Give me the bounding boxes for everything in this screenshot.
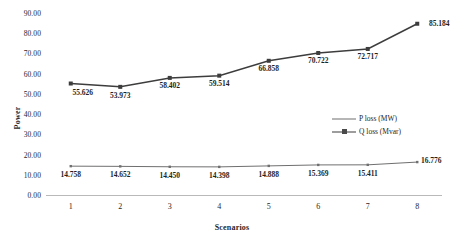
y-axis-tick: 30.00 bbox=[24, 132, 41, 140]
data-label: 14.758 bbox=[60, 171, 81, 179]
y-axis-tick: 60.00 bbox=[24, 71, 41, 79]
data-point-marker bbox=[416, 161, 418, 163]
data-point-marker bbox=[218, 166, 220, 168]
data-label: 16.776 bbox=[421, 157, 442, 165]
data-label: 66.858 bbox=[258, 65, 279, 73]
data-point-marker bbox=[69, 82, 73, 86]
legend: P loss (MW) Q loss (Mvar) bbox=[332, 112, 401, 138]
plot-area: 0.0010.0020.0030.0040.0050.0060.0070.008… bbox=[46, 14, 442, 196]
y-axis-tick: 20.00 bbox=[24, 152, 41, 160]
y-axis-tick: 0.00 bbox=[27, 192, 41, 200]
data-point-marker bbox=[316, 51, 320, 55]
data-point-marker bbox=[367, 164, 369, 166]
data-label: 58.402 bbox=[159, 82, 180, 90]
y-axis-tick: 40.00 bbox=[24, 111, 41, 119]
data-point-marker bbox=[415, 22, 419, 26]
data-label: 55.626 bbox=[72, 89, 93, 97]
data-point-marker bbox=[118, 85, 122, 89]
data-point-marker bbox=[217, 74, 221, 78]
data-label: 70.722 bbox=[308, 57, 329, 65]
x-axis-tick: 3 bbox=[168, 203, 172, 211]
x-axis-tick: 1 bbox=[69, 203, 73, 211]
data-point-marker bbox=[169, 166, 171, 168]
y-axis-tick: 90.00 bbox=[24, 10, 41, 18]
data-point-marker bbox=[70, 165, 72, 167]
legend-item-q-loss: Q loss (Mvar) bbox=[332, 125, 401, 138]
x-axis-title: Scenarios bbox=[0, 223, 464, 232]
data-point-marker bbox=[366, 47, 370, 51]
y-axis-tick: 50.00 bbox=[24, 91, 41, 99]
y-axis-title: Power bbox=[13, 107, 22, 130]
data-label: 14.888 bbox=[258, 171, 279, 179]
legend-key-p-loss-icon bbox=[332, 114, 356, 123]
data-label: 15.411 bbox=[358, 170, 378, 178]
data-label: 14.398 bbox=[209, 172, 230, 180]
data-label: 72.717 bbox=[357, 53, 378, 61]
data-point-marker bbox=[168, 76, 172, 80]
x-axis-tick: 4 bbox=[217, 203, 221, 211]
x-axis-tick: 2 bbox=[118, 203, 122, 211]
data-point-marker bbox=[268, 165, 270, 167]
data-label: 59.514 bbox=[209, 80, 230, 88]
y-axis-tick: 10.00 bbox=[24, 172, 41, 180]
data-label: 85.184 bbox=[429, 20, 450, 28]
legend-key-q-loss-icon bbox=[332, 127, 356, 136]
legend-item-p-loss: P loss (MW) bbox=[332, 112, 401, 125]
data-label: 14.450 bbox=[159, 172, 180, 180]
data-point-marker bbox=[317, 164, 319, 166]
line-chart: Power Scenarios 0.0010.0020.0030.0040.00… bbox=[0, 0, 464, 236]
data-label: 14.652 bbox=[110, 172, 131, 180]
data-label: 15.369 bbox=[308, 170, 329, 178]
series-paths bbox=[46, 14, 442, 196]
legend-label-q-loss: Q loss (Mvar) bbox=[359, 128, 401, 136]
x-axis-tick: 5 bbox=[267, 203, 271, 211]
legend-label-p-loss: P loss (MW) bbox=[359, 115, 397, 123]
x-axis-tick: 8 bbox=[415, 203, 419, 211]
data-point-marker bbox=[267, 59, 271, 63]
series-line bbox=[71, 162, 418, 167]
x-axis-tick: 7 bbox=[366, 203, 370, 211]
y-axis-tick: 70.00 bbox=[24, 51, 41, 59]
data-point-marker bbox=[119, 165, 121, 167]
y-axis-tick: 80.00 bbox=[24, 30, 41, 38]
x-axis-tick: 6 bbox=[316, 203, 320, 211]
data-label: 53.973 bbox=[110, 92, 131, 100]
